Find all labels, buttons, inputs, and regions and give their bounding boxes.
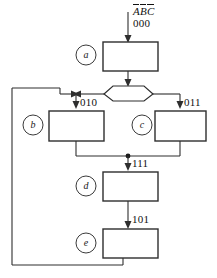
- code-label-merge: 111: [132, 157, 148, 169]
- arrowhead-merge-to-state-d: [125, 163, 132, 171]
- variable-b: B: [140, 5, 147, 17]
- state-name-e: e: [77, 234, 95, 252]
- flow-diagram-svg: [0, 0, 217, 278]
- variable-a: A: [133, 5, 140, 17]
- arrowhead-feedback-to-state-b: [71, 91, 79, 98]
- code-label-start: 000: [133, 17, 150, 29]
- state-name-d: d: [77, 177, 95, 195]
- branch-hexagon[interactable]: [104, 86, 153, 101]
- asm-chart-canvas: ABC 000 010 011 111 101 a b c d e: [0, 0, 217, 278]
- code-label-last: 101: [132, 213, 149, 225]
- state-box-d[interactable]: [103, 172, 158, 201]
- state-box-a[interactable]: [103, 42, 158, 71]
- arrowhead-junction-to-state-b: [73, 101, 80, 109]
- input-variables-label: ABC: [133, 5, 155, 17]
- state-box-e[interactable]: [103, 229, 158, 258]
- state-box-c[interactable]: [155, 111, 206, 141]
- code-label-left-branch: 010: [80, 96, 97, 108]
- state-box-b[interactable]: [49, 111, 104, 141]
- code-label-right-branch: 011: [184, 96, 201, 108]
- arrowhead-state-d-to-state-e: [125, 221, 132, 229]
- arrowhead-decision-to-state-c: [177, 101, 184, 109]
- state-name-b: b: [24, 116, 42, 134]
- state-name-a: a: [77, 46, 95, 64]
- variable-c: C: [147, 5, 155, 17]
- state-name-c: c: [133, 116, 151, 134]
